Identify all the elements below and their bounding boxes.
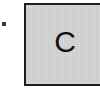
- labeled-box-c: C: [24, 3, 100, 86]
- bullet-dot: [2, 22, 6, 26]
- box-label: C: [41, 27, 89, 57]
